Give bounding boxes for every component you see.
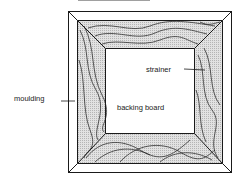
frame-diagram: [0, 0, 239, 183]
label-backing-board: backing board: [117, 104, 164, 112]
label-strainer: strainer: [146, 66, 171, 74]
label-moulding: moulding: [14, 95, 44, 103]
